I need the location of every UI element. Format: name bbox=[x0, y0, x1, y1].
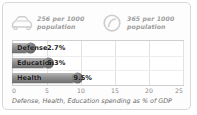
x-tick-15: 15 bbox=[111, 87, 119, 94]
chart-caption: Defense, Health, Education spending as %… bbox=[12, 97, 190, 105]
bar-value-education: 5.3% bbox=[47, 59, 65, 67]
bar-row[interactable]: Education5.3% bbox=[13, 56, 183, 70]
stat-line1-secondary: 365 per 1000 bbox=[127, 15, 174, 23]
bar-value-health: 9.5% bbox=[74, 74, 92, 82]
bar-label-defense: Defense bbox=[17, 44, 47, 52]
stat-line1-vehicles: 256 per 1000 bbox=[37, 15, 84, 23]
infographic-card: 256 per 1000 population 365 per 1000 pop… bbox=[2, 2, 191, 110]
x-tick-25: 25 bbox=[175, 87, 183, 94]
x-axis: 0510152025 bbox=[12, 87, 184, 96]
bar-chart-plot-area: Defense2.7%Education5.3%Health9.5% bbox=[12, 40, 184, 86]
stat-block-secondary: 365 per 1000 population bbox=[96, 12, 192, 34]
stat-text-vehicles: 256 per 1000 population bbox=[37, 15, 84, 30]
x-tick-20: 20 bbox=[145, 87, 153, 94]
x-tick-10: 10 bbox=[77, 87, 85, 94]
car-icon bbox=[10, 12, 34, 34]
stats-row: 256 per 1000 population 365 per 1000 pop… bbox=[3, 8, 192, 38]
stat-line2-secondary: population bbox=[127, 23, 174, 31]
bar-row[interactable]: Defense2.7% bbox=[13, 41, 183, 55]
x-tick-0: 0 bbox=[12, 87, 16, 94]
stat-block-vehicles: 256 per 1000 population bbox=[3, 12, 96, 34]
stat-line2-vehicles: population bbox=[37, 23, 84, 31]
x-tick-5: 5 bbox=[45, 87, 49, 94]
bar-row[interactable]: Health9.5% bbox=[13, 71, 183, 85]
bar-value-defense: 2.7% bbox=[47, 44, 65, 52]
stat-text-secondary: 365 per 1000 population bbox=[127, 15, 174, 30]
circle-slash-icon bbox=[100, 12, 124, 34]
bar-label-health: Health bbox=[17, 74, 42, 82]
gridline-x-25 bbox=[183, 41, 184, 85]
